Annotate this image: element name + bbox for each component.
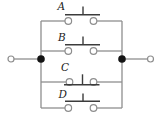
switch-a-label: A xyxy=(57,0,66,12)
switch-d-label: D xyxy=(58,88,68,100)
switch-b-label: B xyxy=(57,31,66,43)
switch-d-contact-left xyxy=(65,105,72,112)
switch-c-label: C xyxy=(61,61,69,73)
switch-b-contact-left xyxy=(65,48,72,55)
contacts xyxy=(8,18,154,112)
right-junction-dot xyxy=(118,55,126,63)
wires xyxy=(14,21,148,108)
switch-a-contact-right xyxy=(90,18,97,25)
junction-nodes xyxy=(37,55,126,63)
left-terminal-circle xyxy=(8,56,14,62)
switch-b-contact-right xyxy=(90,48,97,55)
circuit-svg: A B C D xyxy=(0,0,164,124)
circuit-diagram: A B C D xyxy=(0,0,164,124)
left-junction-dot xyxy=(37,55,45,63)
switch-a-contact-left xyxy=(65,18,72,25)
right-terminal-circle xyxy=(148,56,154,62)
switch-d-contact-right xyxy=(90,105,97,112)
